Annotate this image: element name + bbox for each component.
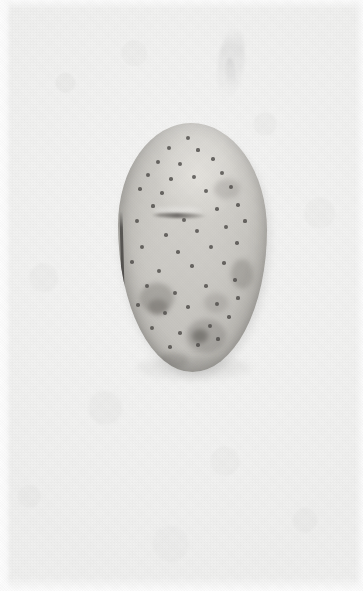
- scan-margin-right: [355, 0, 363, 591]
- scan-margin-top: [0, 0, 363, 9]
- photograph-canvas: [0, 0, 363, 591]
- scan-margin-left: [0, 0, 11, 591]
- potato-contact-shadow: [136, 356, 252, 380]
- potato-body: [118, 123, 267, 372]
- potato: [118, 123, 268, 374]
- scan-margin-bottom: [0, 577, 363, 591]
